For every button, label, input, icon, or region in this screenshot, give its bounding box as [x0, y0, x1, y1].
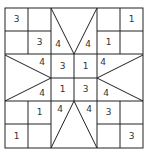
cell-number: 1	[83, 61, 89, 71]
cell-number: 3	[60, 61, 66, 71]
cell-number: 4	[57, 104, 63, 114]
cell-number: 4	[100, 57, 106, 67]
grid-lines	[5, 8, 143, 148]
cell-number: 3	[83, 84, 89, 94]
cell-number: 3	[14, 14, 20, 24]
cell-number: 1	[60, 84, 66, 94]
cell-number: 3	[106, 107, 112, 117]
cell-number: 3	[129, 131, 135, 141]
cell-number: 1	[129, 14, 135, 24]
cell-number: 1	[37, 107, 43, 117]
cell-number: 4	[86, 104, 92, 114]
cell-number: 1	[14, 131, 20, 141]
puzzle-board: 31344143144134144313	[0, 0, 147, 152]
cell-number: 4	[39, 88, 45, 98]
cell-number: 4	[55, 39, 61, 49]
cell-number: 4	[39, 57, 45, 67]
cell-number: 4	[85, 39, 91, 49]
cell-number: 3	[37, 37, 43, 47]
cell-number: 4	[103, 88, 109, 98]
cell-number: 1	[106, 37, 112, 47]
